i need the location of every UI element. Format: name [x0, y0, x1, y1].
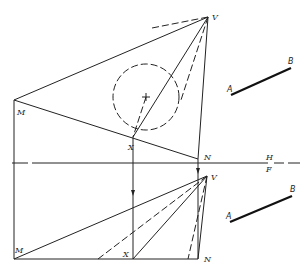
line-V-X-front [133, 176, 207, 259]
segment-AB-front: A B [225, 185, 296, 222]
label-N-front: N [203, 255, 212, 264]
tangent-dash-upper [152, 17, 208, 28]
arrow-down-icon [196, 168, 200, 174]
label-F: F [265, 165, 272, 174]
label-A-top: A [226, 85, 232, 94]
label-N-top: N [203, 153, 212, 162]
label-A-front: A [225, 212, 231, 221]
top-view: V M X N [14, 13, 219, 259]
arrow-down-icon [131, 190, 135, 196]
line-M-N-top [14, 100, 198, 159]
projection-diagram: V M X N H F V M X N A B A B [0, 0, 308, 276]
label-H: H [265, 153, 274, 162]
label-B-top: B [288, 57, 294, 66]
center-mark-icon [142, 93, 150, 101]
segment-AB-top: A B [226, 57, 294, 95]
label-X-top: X [127, 143, 134, 152]
label-B-front: B [290, 185, 296, 194]
label-X-front: X [122, 250, 129, 259]
line-M-V-top [14, 17, 208, 100]
label-V-top: V [212, 13, 219, 22]
line-V-N-front [198, 176, 207, 259]
label-M-front: M [14, 246, 24, 255]
line-V-N-top [198, 17, 208, 159]
label-M-top: M [16, 108, 26, 117]
fold-line-HF: H F [12, 153, 300, 174]
radius-to-X [133, 97, 146, 137]
tangent-dash-right [181, 17, 208, 100]
label-V-front: V [211, 173, 218, 182]
line-V-M-front [14, 176, 207, 259]
front-view: V M X N [14, 173, 218, 264]
